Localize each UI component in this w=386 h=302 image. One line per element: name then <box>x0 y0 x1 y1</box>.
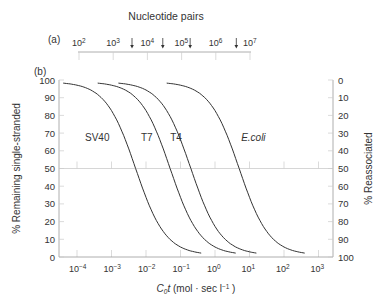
y-tick-label-left: 10 <box>44 234 55 245</box>
top-axis-tick-label: 106 <box>209 37 223 48</box>
arrow-head-icon <box>235 45 239 49</box>
y-tick-label-left: 50 <box>44 163 55 174</box>
y-tick-label-right: 20 <box>338 110 349 121</box>
reassociation-chart: Nucleotide pairs(a)102103104105106107 (b… <box>0 0 386 302</box>
y-tick-label-right: 60 <box>338 181 349 192</box>
y-tick-label-right: 50 <box>338 163 349 174</box>
y-tick-label-right: 30 <box>338 128 349 139</box>
x-tick-label: 10−4 <box>69 263 87 274</box>
top-axis-tick-label: 107 <box>243 37 257 48</box>
y-tick-label-right: 70 <box>338 198 349 209</box>
top-axis-tick-label: 102 <box>72 37 86 48</box>
y-tick-label-right: 100 <box>338 252 354 263</box>
y-tick-label-left: 80 <box>44 110 55 121</box>
series-label-t4: T4 <box>170 132 182 143</box>
y-tick-label-left: 30 <box>44 198 55 209</box>
nucleotide-pairs-axis: Nucleotide pairs(a)102103104105106107 <box>48 10 257 60</box>
x-tick-label: 100 <box>207 263 221 274</box>
x-tick-label: 10−2 <box>138 263 156 274</box>
y-tick-label-right: 80 <box>338 216 349 227</box>
series-label-t7: T7 <box>141 132 153 143</box>
x-tick-label: 103 <box>311 263 325 274</box>
y-tick-label-left: 100 <box>39 75 55 86</box>
arrow-head-icon <box>130 45 134 49</box>
y-tick-label-left: 90 <box>44 92 55 103</box>
x-tick-label: 10−3 <box>104 263 122 274</box>
top-axis-title: Nucleotide pairs <box>128 10 203 22</box>
x-tick-label: 101 <box>242 263 256 274</box>
y-tick-label-left: 70 <box>44 128 55 139</box>
axis-labels: (b)0100109020803070406050506040703080209… <box>11 66 374 295</box>
y-tick-label-left: 40 <box>44 181 55 192</box>
y-tick-label-right: 0 <box>338 75 343 86</box>
arrow-head-icon <box>188 45 192 49</box>
arrow-head-icon <box>161 45 165 49</box>
y-tick-label-right: 40 <box>338 145 349 156</box>
y-axis-label-right: % Reassociated <box>363 132 374 204</box>
series-label-sv40: SV40 <box>85 132 110 143</box>
gridlines <box>59 162 333 258</box>
y-axis-label-left: % Remaining single-stranded <box>11 103 22 234</box>
panel-a-label: (a) <box>48 34 60 45</box>
top-axis-tick-label: 104 <box>140 37 154 48</box>
y-tick-label-right: 10 <box>338 92 349 103</box>
x-tick-label: 102 <box>276 263 290 274</box>
top-axis-tick-label: 105 <box>175 37 189 48</box>
y-tick-label-left: 0 <box>50 252 55 263</box>
x-tick-label: 10−1 <box>173 263 191 274</box>
y-tick-label-left: 60 <box>44 145 55 156</box>
y-tick-label-right: 90 <box>338 234 349 245</box>
series-label-ecoli: E.coli <box>241 132 266 143</box>
top-axis-tick-label: 103 <box>106 37 120 48</box>
y-tick-label-left: 20 <box>44 216 55 227</box>
x-axis-label: C0t (mol · sec l−1 ) <box>157 283 236 295</box>
